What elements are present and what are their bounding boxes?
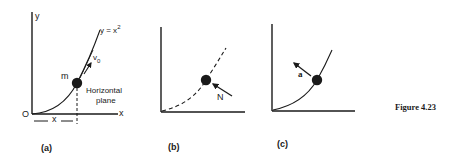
velocity-label: v0 — [93, 54, 100, 64]
parabola-curve — [273, 50, 332, 110]
mass-ball — [201, 75, 211, 85]
origin-label: O — [22, 110, 29, 119]
curve-equation-base: y = x — [100, 26, 117, 35]
plane-label-line2: plane — [96, 97, 116, 105]
acceleration-label: a — [298, 70, 303, 79]
velocity-subscript: 0 — [97, 58, 100, 64]
figure-caption: Figure 4.23 — [395, 103, 436, 112]
mass-ball — [312, 75, 322, 85]
plane-label-line1: Horizontal — [86, 87, 122, 95]
mass-ball — [72, 78, 82, 88]
panel-b-label: (b) — [168, 143, 180, 152]
figure-drawing — [0, 0, 471, 158]
figure-4-23: y y = x2 v0 m Horizontal plane O x x (a)… — [0, 0, 471, 158]
panel-c — [272, 24, 355, 111]
panel-b — [161, 27, 245, 112]
curve-equation-label: y = x2 — [100, 24, 120, 35]
normal-force-label: N — [217, 93, 224, 102]
panel-a-label: (a) — [41, 144, 52, 153]
dimension-label: x — [52, 115, 57, 124]
panel-c-label: (c) — [277, 140, 288, 149]
velocity-arrow — [84, 63, 91, 74]
x-axis-label: x — [119, 109, 124, 118]
mass-label: m — [61, 72, 69, 81]
velocity-guide-line — [80, 50, 93, 78]
y-axis-label: y — [35, 12, 40, 21]
curve-equation-exponent: 2 — [117, 24, 120, 30]
